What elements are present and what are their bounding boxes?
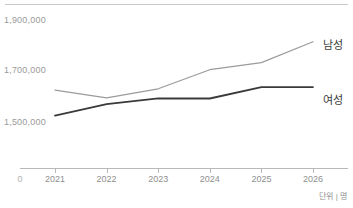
unit-caption: 단위 | 명: [319, 190, 347, 201]
series-line-female: [55, 87, 313, 116]
x-axis-tick-label-2021: 2021: [45, 174, 65, 184]
x-axis-tick-2022: [107, 169, 108, 173]
x-axis-tick-2021: [55, 169, 56, 173]
x-axis-origin-label: 0: [17, 174, 22, 184]
x-axis-tick-2024: [210, 169, 211, 173]
x-axis-tick-label-2025: 2025: [251, 174, 271, 184]
x-axis-tick-2025: [261, 169, 262, 173]
x-axis-line: [20, 168, 348, 169]
series-label-male: 남성: [323, 36, 343, 52]
x-axis-tick-label-2024: 2024: [200, 174, 220, 184]
x-axis-tick-2026: [313, 169, 314, 173]
series-line-male: [55, 42, 313, 98]
line-chart: 1,900,000 1,700,000 1,500,000 0 20212022…: [0, 0, 353, 208]
x-axis-tick-2023: [158, 169, 159, 173]
x-axis-tick-label-2022: 2022: [97, 174, 117, 184]
series-label-female: 여성: [323, 91, 343, 107]
x-axis-tick-label-2023: 2023: [148, 174, 168, 184]
x-axis-tick-label-2026: 2026: [303, 174, 323, 184]
